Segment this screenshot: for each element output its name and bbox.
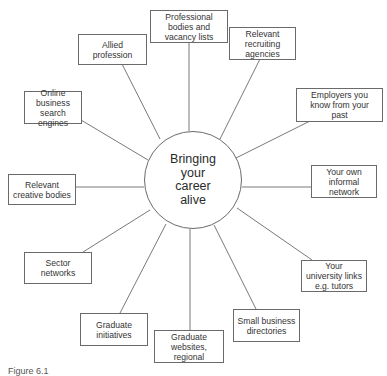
node-professional-bodies: Professional bodies and vacancy lists — [150, 10, 228, 43]
center-label: Bringing your career alive — [163, 153, 223, 207]
node-label: Relevant recruiting agencies — [241, 29, 285, 59]
center-line-1: Bringing — [170, 152, 216, 166]
center-line-3: career — [175, 179, 210, 193]
node-label: Relevant creative bodies — [12, 180, 72, 200]
node-label: Sector networks — [38, 258, 78, 278]
node-label: Graduate websites, regional — [158, 332, 220, 362]
node-informal-network: Your own informal network — [311, 165, 377, 198]
node-relevant-recruiting: Relevant recruiting agencies — [229, 27, 296, 60]
node-employers-past: Employers you know from your past — [296, 88, 383, 122]
figure-caption: Figure 6.1 — [8, 366, 49, 376]
node-label: Your university links e.g. tutors — [306, 261, 362, 291]
center-node: Bringing your career alive — [144, 131, 242, 229]
node-online-search: Online business search engines — [24, 91, 82, 124]
node-label: Graduate initiatives — [94, 320, 134, 340]
node-graduate-websites: Graduate websites, regional — [154, 330, 224, 363]
center-line-2: your — [181, 166, 205, 180]
center-line-4: alive — [180, 193, 206, 207]
node-allied-profession: Allied profession — [78, 34, 147, 65]
node-creative-bodies: Relevant creative bodies — [8, 174, 76, 205]
node-label: Allied profession — [90, 40, 136, 60]
node-sector-networks: Sector networks — [24, 252, 92, 284]
node-label: Employers you know from your past — [304, 90, 376, 120]
node-label: Professional bodies and vacancy lists — [154, 12, 224, 42]
node-label: Online business search engines — [28, 88, 78, 128]
node-label: Small business directories — [237, 316, 296, 336]
node-small-business: Small business directories — [233, 309, 300, 342]
node-label: Your own informal network — [324, 167, 364, 197]
node-university-links: Your university links e.g. tutors — [301, 260, 367, 292]
node-graduate-initiatives: Graduate initiatives — [80, 313, 148, 346]
